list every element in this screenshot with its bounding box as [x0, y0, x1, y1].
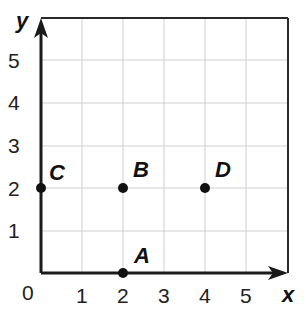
- point-d-label: D: [215, 157, 231, 182]
- svg-text:4: 4: [199, 284, 211, 307]
- svg-text:1: 1: [8, 219, 20, 242]
- svg-text:4: 4: [8, 91, 20, 114]
- point-a-label: A: [133, 243, 150, 268]
- point-c: [36, 183, 46, 193]
- point-c-label: C: [49, 160, 66, 185]
- svg-text:1: 1: [76, 284, 88, 307]
- coordinate-plane: 1 2 3 4 5 1 2 3 4 5 0 y x A B C D: [0, 0, 306, 321]
- grid-lines: [41, 18, 288, 273]
- y-tick-labels: 1 2 3 4 5: [8, 49, 20, 242]
- svg-text:3: 3: [8, 134, 20, 157]
- svg-text:2: 2: [8, 177, 20, 200]
- svg-text:3: 3: [158, 284, 170, 307]
- point-b-label: B: [133, 157, 149, 182]
- point-b: [118, 183, 128, 193]
- axes: [41, 30, 276, 273]
- x-tick-labels: 1 2 3 4 5: [76, 284, 252, 307]
- origin-label: 0: [22, 281, 34, 304]
- svg-text:5: 5: [8, 49, 20, 72]
- svg-text:2: 2: [117, 284, 129, 307]
- y-axis-label: y: [15, 8, 30, 33]
- point-a: [118, 268, 128, 278]
- svg-text:5: 5: [240, 284, 252, 307]
- x-axis-label: x: [281, 282, 295, 307]
- point-d: [200, 183, 210, 193]
